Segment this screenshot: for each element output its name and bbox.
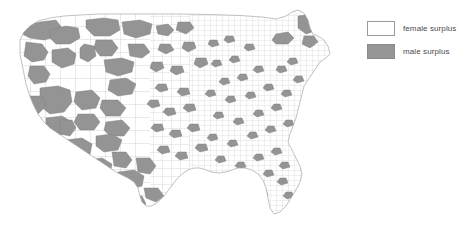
map-svg (0, 0, 345, 234)
legend-swatch-female-surplus (367, 21, 395, 36)
legend-item-male-surplus: male surplus (367, 43, 461, 59)
map-legend: female surplus male surplus (367, 20, 461, 66)
legend-label-male-surplus: male surplus (403, 47, 450, 56)
us-county-choropleth-map (0, 0, 345, 234)
legend-label-female-surplus: female surplus (403, 24, 456, 33)
legend-item-female-surplus: female surplus (367, 20, 461, 36)
figure-canvas: female surplus male surplus (0, 0, 463, 234)
legend-swatch-male-surplus (367, 44, 395, 59)
